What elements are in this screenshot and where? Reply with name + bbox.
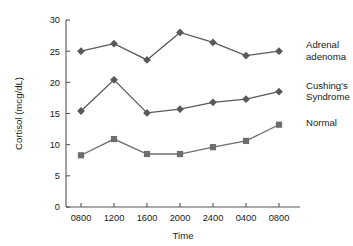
x-tick-label: 0800 bbox=[269, 213, 290, 223]
legend-label-3: Normal bbox=[306, 117, 337, 128]
data-point-marker bbox=[111, 136, 117, 142]
data-point-marker bbox=[78, 152, 84, 158]
data-point-marker bbox=[209, 98, 217, 106]
data-point-marker bbox=[275, 88, 283, 96]
data-point-marker bbox=[243, 138, 249, 144]
legend-label-1-line2: adenoma bbox=[306, 51, 347, 62]
x-tick-label: 0800 bbox=[71, 213, 92, 223]
y-tick-label: 15 bbox=[50, 109, 60, 119]
data-point-marker bbox=[210, 144, 216, 150]
chart-canvas: 0510152025300800120016002000240004000800… bbox=[0, 0, 353, 246]
y-axis-title: Cortisol (mcg/dL) bbox=[13, 77, 24, 150]
data-point-marker bbox=[209, 39, 217, 47]
y-tick-label: 0 bbox=[55, 202, 60, 212]
y-tick-label: 25 bbox=[50, 47, 60, 57]
data-point-marker bbox=[177, 151, 183, 157]
data-point-marker bbox=[144, 151, 150, 157]
series-1 bbox=[77, 29, 283, 64]
x-tick-label: 2000 bbox=[170, 213, 191, 223]
x-tick-label: 1600 bbox=[137, 213, 158, 223]
data-point-marker bbox=[77, 47, 85, 55]
x-tick-label: 2400 bbox=[203, 213, 224, 223]
x-tick-label: 1200 bbox=[104, 213, 125, 223]
series-2 bbox=[77, 76, 283, 117]
series-3 bbox=[78, 122, 282, 159]
cortisol-line-chart: 0510152025300800120016002000240004000800… bbox=[0, 0, 353, 246]
y-tick-label: 10 bbox=[50, 140, 60, 150]
legend-label-2: Cushing's bbox=[306, 80, 348, 91]
data-point-marker bbox=[242, 95, 250, 103]
y-tick-label: 5 bbox=[55, 171, 60, 181]
data-point-marker bbox=[275, 47, 283, 55]
data-point-marker bbox=[176, 105, 184, 113]
legend-label-2-line2: Syndrome bbox=[306, 91, 350, 102]
legend-label-1: Adrenal bbox=[306, 39, 339, 50]
x-axis-title: Time bbox=[173, 230, 194, 241]
y-tick-label: 30 bbox=[50, 15, 60, 25]
data-point-marker bbox=[242, 52, 250, 60]
data-point-marker bbox=[110, 40, 118, 48]
data-point-marker bbox=[276, 122, 282, 128]
x-tick-label: 0400 bbox=[236, 213, 257, 223]
series-line bbox=[81, 125, 279, 156]
y-tick-label: 20 bbox=[50, 78, 60, 88]
